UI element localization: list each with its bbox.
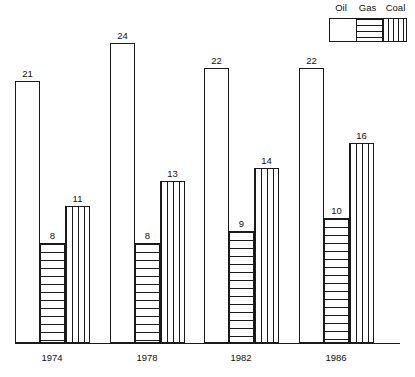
bar-oil-1974 xyxy=(15,81,40,343)
bar-coal-1978 xyxy=(160,181,185,343)
bar-coal-1986 xyxy=(349,143,374,343)
bar-chart: Oil Gas Coal 218111974248131978229141982… xyxy=(0,0,415,377)
bar-value-coal-1978: 13 xyxy=(152,168,193,179)
x-axis-label-1986: 1986 xyxy=(316,352,356,364)
bar-oil-1978 xyxy=(110,43,135,343)
plot-area: 2181119742481319782291419822210161986 xyxy=(0,0,415,377)
x-axis-label-1982: 1982 xyxy=(221,352,261,364)
bar-gas-1974 xyxy=(40,243,65,343)
bar-coal-1982 xyxy=(254,168,279,343)
bar-value-oil-1974: 21 xyxy=(7,68,48,79)
bar-oil-1982 xyxy=(204,68,229,343)
bar-gas-1982 xyxy=(229,231,254,343)
bar-value-coal-1982: 14 xyxy=(246,155,287,166)
bar-gas-1986 xyxy=(324,218,349,343)
bar-value-oil-1982: 22 xyxy=(196,55,237,66)
bar-value-oil-1978: 24 xyxy=(102,30,143,41)
bar-coal-1974 xyxy=(65,206,90,343)
bar-gas-1978 xyxy=(135,243,160,343)
bar-value-oil-1986: 22 xyxy=(291,55,332,66)
bar-value-coal-1974: 11 xyxy=(57,193,98,204)
bar-value-coal-1986: 16 xyxy=(341,130,382,141)
x-axis-label-1974: 1974 xyxy=(32,352,72,364)
x-axis-line xyxy=(15,343,400,344)
x-axis-label-1978: 1978 xyxy=(127,352,167,364)
